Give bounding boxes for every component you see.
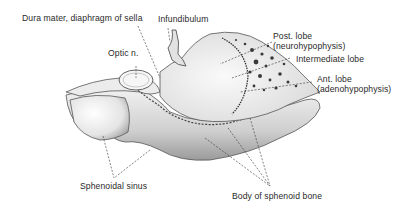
label-dura-mater: Dura mater, diaphragm of sella xyxy=(22,13,143,23)
label-neurohypophysis: (neurohypophysis) xyxy=(273,41,345,51)
label-body-of-sphenoid: Body of sphenoid bone xyxy=(232,191,322,201)
hypophysis-drawing xyxy=(0,0,411,208)
label-infundibulum: Infundibulum xyxy=(158,14,208,24)
anatomy-figure: Dura mater, diaphragm of sella Infundibu… xyxy=(0,0,411,208)
label-adenohypophysis: (adenohypophysis) xyxy=(317,84,391,94)
label-intermediate-lobe: Intermediate lobe xyxy=(296,54,364,64)
label-post-lobe: Post. lobe xyxy=(273,31,312,41)
sphenoidal-sinus-shape xyxy=(70,95,129,140)
label-optic-nerve: Optic n. xyxy=(108,48,138,58)
label-ant-lobe: Ant. lobe xyxy=(317,74,352,84)
infundibulum-shape xyxy=(168,30,186,66)
label-sphenoidal-sinus: Sphenoidal sinus xyxy=(80,181,147,191)
